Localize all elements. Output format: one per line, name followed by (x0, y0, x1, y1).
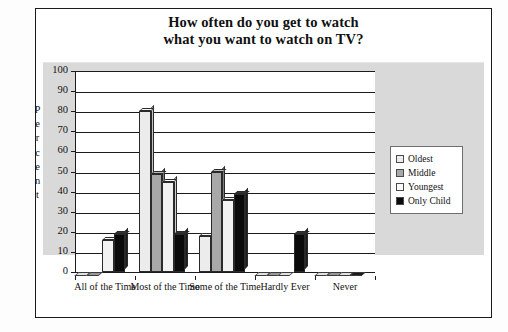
y-axis-tick-mark (71, 192, 75, 193)
chart-title-line-2: what you want to watch on TV? (36, 31, 491, 48)
bar-youngest (222, 200, 234, 272)
gridline (76, 92, 375, 93)
legend-item-middle: Middle (396, 166, 458, 179)
y-axis-tick-mark (71, 71, 75, 72)
legend-item-label: Only Child (408, 196, 451, 206)
bar-youngest (162, 182, 174, 272)
y-axis-tick-label: 60 (42, 144, 68, 155)
y-axis-tick-mark (71, 252, 75, 253)
bar-face (211, 172, 223, 273)
legend-swatch-icon (396, 197, 404, 205)
bar-face (199, 236, 211, 272)
bar-face (222, 200, 234, 272)
y-axis-tick-mark (71, 131, 75, 132)
bar-middle (211, 172, 223, 273)
y-axis-tick-label: 0 (42, 265, 68, 276)
x-axis-tick-mark (135, 276, 136, 280)
bar-face (139, 111, 151, 272)
x-axis-tick-mark (195, 276, 196, 280)
y-axis-tick-mark (71, 172, 75, 173)
y-axis-tick-mark (71, 212, 75, 213)
gridline (76, 193, 375, 194)
y-axis-tick-mark (71, 151, 75, 152)
figure-page: How often do you get to watch what you w… (0, 0, 508, 332)
chart-title-line-1: How often do you get to watch (36, 14, 491, 31)
bar-oldest (139, 111, 151, 272)
chart-legend: OldestMiddleYoungestOnly Child (390, 146, 463, 214)
y-axis-tick-label: 100 (42, 64, 68, 75)
legend-swatch-icon (396, 155, 404, 163)
y-axis-tick-mark (71, 272, 75, 273)
x-axis-tick-label: Never (309, 281, 381, 294)
bar-only-child (294, 234, 306, 272)
bar-only-child (174, 234, 186, 272)
bar-side (245, 187, 248, 269)
legend-item-only-child: Only Child (396, 194, 458, 207)
legend-item-youngest: Youngest (396, 180, 458, 193)
x-axis-tick-mark (315, 276, 316, 280)
y-axis-tick-mark (71, 232, 75, 233)
y-axis-tick-mark (71, 111, 75, 112)
y-axis-tick-label: 20 (42, 225, 68, 236)
y-axis-tick-label: 30 (42, 205, 68, 216)
legend-item-label: Middle (408, 168, 435, 178)
page-title: How often do you get to watch what you w… (36, 14, 491, 48)
y-axis-tick-label: 50 (42, 165, 68, 176)
x-axis-tick-mark (255, 276, 256, 280)
bar-youngest (102, 240, 114, 272)
gridline (76, 132, 375, 133)
legend-item-label: Oldest (408, 154, 433, 164)
y-axis-tick-label: 10 (42, 245, 68, 256)
legend-item-label: Youngest (408, 182, 443, 192)
bar-face (162, 182, 174, 272)
bar-only-child (114, 234, 126, 272)
x-axis-tick-mark (375, 276, 376, 280)
y-axis-tick-label: 70 (42, 124, 68, 135)
bar-face (174, 234, 186, 272)
legend-swatch-icon (396, 183, 404, 191)
bar-face (294, 234, 306, 272)
bar-face (234, 194, 246, 272)
bar-face (114, 234, 126, 272)
gridline (76, 152, 375, 153)
y-axis-tick-label: 90 (42, 84, 68, 95)
bar-face (102, 240, 114, 272)
y-axis-tick-label: 40 (42, 185, 68, 196)
bar-oldest (199, 236, 211, 272)
y-axis-tick-label: 80 (42, 104, 68, 115)
y-axis-tick-mark (71, 91, 75, 92)
gridline (76, 112, 375, 113)
x-axis-tick-mark (75, 276, 76, 280)
bar-face (151, 174, 163, 272)
legend-item-oldest: Oldest (396, 152, 458, 165)
gridline (76, 173, 375, 174)
bar-only-child (234, 194, 246, 272)
bar-middle (151, 174, 163, 272)
legend-swatch-icon (396, 169, 404, 177)
